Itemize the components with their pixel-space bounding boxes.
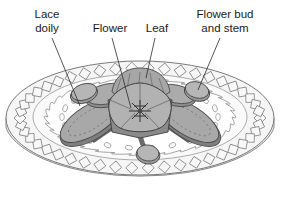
rim-tile [33, 87, 43, 97]
doily-eyelet [216, 113, 221, 120]
flower-arrangement-illustration: LacedoilyFlowerLeafFlower budand stem [0, 0, 281, 219]
label-lace-doily: Lacedoily [35, 8, 60, 34]
central-flower [108, 83, 172, 138]
illustration-figure: LacedoilyFlowerLeafFlower budand stem [0, 0, 281, 219]
label-leaf: Leaf [146, 22, 169, 34]
label-flower-bud-and-stem: Flower budand stem [197, 8, 254, 34]
doily-eyelet [60, 113, 65, 120]
rim-tile [238, 139, 248, 149]
label-flower: Flower [93, 22, 128, 34]
flower-center-dot [138, 109, 143, 114]
label-texts: LacedoilyFlowerLeafFlower budand stem [35, 8, 254, 34]
